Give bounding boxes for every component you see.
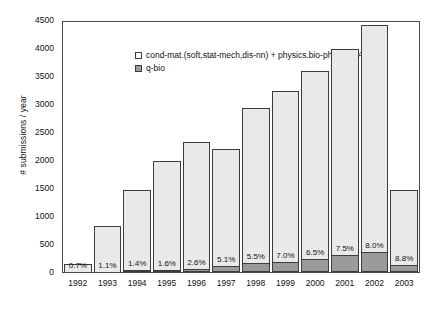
- y-tick-label: 3000: [35, 99, 54, 109]
- bar-segment-qbio[interactable]: [301, 259, 329, 272]
- bar-stack[interactable]: 0.7%: [64, 264, 92, 272]
- y-tick-label: 2500: [35, 127, 54, 137]
- chart-figure: # submissions / year 0500100015002000250…: [0, 0, 435, 310]
- bar-stack[interactable]: 6.5%: [301, 71, 329, 272]
- bar-segment-cond-mat[interactable]: 7.5%: [331, 49, 359, 255]
- bar-segment-qbio[interactable]: [123, 270, 151, 272]
- bar-segment-cond-mat[interactable]: 5.5%: [242, 108, 270, 263]
- bar-segment-qbio[interactable]: [361, 252, 389, 272]
- bar-percent-label: 5.1%: [213, 255, 239, 264]
- bar-percent-label: 8.0%: [362, 241, 388, 250]
- bar-segment-qbio[interactable]: [153, 270, 181, 272]
- x-tick-label: 1995: [152, 278, 182, 288]
- bar-stack[interactable]: 1.4%: [123, 190, 151, 272]
- bar-percent-label: 8.8%: [391, 254, 417, 263]
- bar-series-container: 0.7%1.1%1.4%1.6%2.6%5.1%5.5%7.0%6.5%7.5%…: [63, 22, 419, 272]
- bar-stack[interactable]: 5.1%: [212, 149, 240, 272]
- y-tick-label: 3500: [35, 71, 54, 81]
- x-tick-label: 1996: [182, 278, 212, 288]
- x-tick-label: 1993: [93, 278, 123, 288]
- bar-segment-qbio[interactable]: [272, 262, 300, 272]
- bar-stack[interactable]: 7.5%: [331, 49, 359, 272]
- bar-percent-label: 0.7%: [65, 261, 91, 270]
- bar-segment-cond-mat[interactable]: 8.0%: [361, 25, 389, 252]
- bar-percent-label: 1.6%: [154, 259, 180, 268]
- bar-segment-cond-mat[interactable]: 6.5%: [301, 71, 329, 259]
- bar-percent-label: 5.5%: [243, 252, 269, 261]
- bar-stack[interactable]: 8.0%: [361, 25, 389, 272]
- x-tick-label: 1992: [63, 278, 93, 288]
- bar-segment-cond-mat[interactable]: 1.4%: [123, 190, 151, 270]
- y-tick-label: 1500: [35, 183, 54, 193]
- bar-stack[interactable]: 1.1%: [94, 226, 122, 272]
- bar-segment-qbio[interactable]: [94, 272, 122, 273]
- x-tick-label: 1994: [122, 278, 152, 288]
- bar-stack[interactable]: 5.5%: [242, 108, 270, 272]
- y-tick-label: 500: [40, 239, 54, 249]
- bar-percent-label: 7.0%: [273, 251, 299, 260]
- y-tick-label: 1000: [35, 211, 54, 221]
- bar-percent-label: 6.5%: [302, 248, 328, 257]
- bar-segment-cond-mat[interactable]: 1.6%: [153, 161, 181, 270]
- bar-percent-label: 2.6%: [184, 258, 210, 267]
- bar-percent-label: 7.5%: [332, 244, 358, 253]
- bar-stack[interactable]: 2.6%: [183, 142, 211, 272]
- x-tick-label: 1999: [271, 278, 301, 288]
- bar-segment-cond-mat[interactable]: 5.1%: [212, 149, 240, 266]
- bar-stack[interactable]: 8.8%: [390, 190, 418, 272]
- x-tick-label: 2000: [300, 278, 330, 288]
- bar-segment-cond-mat[interactable]: 0.7%: [64, 264, 92, 272]
- x-tick-label: 1997: [211, 278, 241, 288]
- bar-stack[interactable]: 1.6%: [153, 161, 181, 272]
- y-tick-label: 4500: [35, 15, 54, 25]
- bar-percent-label: 1.4%: [124, 259, 150, 268]
- y-tick-label: 0: [49, 267, 54, 277]
- bar-segment-cond-mat[interactable]: 7.0%: [272, 91, 300, 262]
- x-tick-label: 2002: [360, 278, 390, 288]
- y-tick-label: 2000: [35, 155, 54, 165]
- bar-segment-qbio[interactable]: [331, 255, 359, 272]
- x-tick-label: 1998: [241, 278, 271, 288]
- bar-segment-qbio[interactable]: [242, 263, 270, 272]
- bar-segment-cond-mat[interactable]: 8.8%: [390, 190, 418, 265]
- bar-segment-qbio[interactable]: [183, 269, 211, 272]
- x-tick-label: 2001: [330, 278, 360, 288]
- bar-stack[interactable]: 7.0%: [272, 91, 300, 272]
- bar-percent-label: 1.1%: [95, 261, 121, 270]
- bar-segment-qbio[interactable]: [212, 266, 240, 272]
- bar-segment-qbio[interactable]: [390, 265, 418, 272]
- x-tick-label: 2003: [389, 278, 419, 288]
- bar-segment-cond-mat[interactable]: 1.1%: [94, 226, 122, 271]
- y-tick-label: 4000: [35, 43, 54, 53]
- bar-segment-cond-mat[interactable]: 2.6%: [183, 142, 211, 269]
- y-axis-label: # submissions / year: [18, 55, 28, 215]
